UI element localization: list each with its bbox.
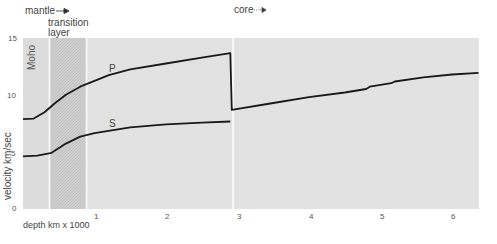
moho-label: Moho — [26, 45, 37, 70]
x-axis-label: depth km x 1000 — [23, 220, 90, 230]
core-label: core — [234, 4, 253, 15]
transition-layer-label: transition layer — [48, 18, 89, 38]
y-tick-15: 15 — [8, 34, 17, 43]
x-tick-1: 1 — [94, 212, 98, 221]
transition-label-line2: layer — [48, 28, 89, 38]
transition-layer-band — [50, 38, 86, 209]
x-tick-6: 6 — [451, 212, 455, 221]
s-wave-label: S — [109, 118, 116, 129]
core-arrow-icon — [254, 8, 266, 13]
y-tick-0: 0 — [12, 204, 16, 213]
y-axis-label: velocity km/sec — [2, 132, 13, 200]
x-tick-3: 3 — [237, 212, 241, 221]
mantle-arrow-icon — [56, 9, 69, 14]
plot-background — [23, 38, 479, 209]
x-tick-5: 5 — [380, 212, 384, 221]
mantle-label: mantle — [25, 5, 55, 16]
p-wave-label: P — [109, 63, 116, 74]
x-tick-4: 4 — [309, 212, 313, 221]
y-tick-10: 10 — [7, 91, 16, 100]
x-tick-2: 2 — [165, 212, 169, 221]
